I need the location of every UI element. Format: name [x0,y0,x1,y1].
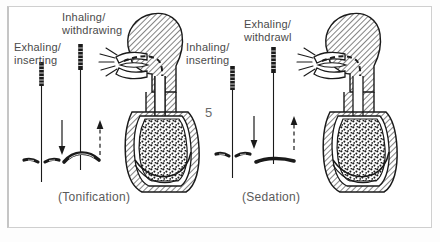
label-inhaling-inserting: Inhaling/ inserting [186,41,229,66]
skin-line-flat-right [256,158,294,162]
label-inhaling-withdrawing: Inhaling/ withdrawing [62,11,122,36]
panel-tonification: Exhaling/ inserting Inhaling/ withdrawin… [0,0,220,242]
needle-icon-exhaling-withdrawl [271,47,276,164]
arrow-up-dashed-right [291,116,298,150]
skin-line-raised-left [64,153,99,162]
label-exhaling-inserting: Exhaling/ inserting [14,41,61,66]
panel-sedation: Inhaling/ inserting Exhaling/ withdrawl … [214,0,434,242]
tonification-drawing [0,0,220,242]
needle-icon-exhaling-inserting [39,62,44,182]
needle-icon-inhaling-inserting [230,66,235,178]
arrow-down-solid-left [59,120,66,155]
needle-icon-inhaling-withdrawing [78,44,83,170]
figure-root: Exhaling/ inserting Inhaling/ withdrawin… [0,0,440,242]
air-puff-icon-left [99,48,117,76]
arrow-up-dashed-left [97,120,104,155]
caption-sedation: (Sedation) [242,190,300,204]
air-puff-icon-right [297,48,315,76]
head-torso-profile-icon-right [314,13,397,192]
caption-tonification: (Tonification) [58,190,130,204]
figure-number: 5 [205,105,212,120]
arrow-down-solid-right [251,116,258,149]
label-exhaling-withdrawl: Exhaling/ withdrawl [244,18,292,43]
